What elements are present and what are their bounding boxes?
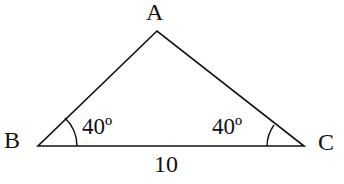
triangle-diagram: A B C 40º 40º 10 bbox=[0, 0, 344, 184]
vertex-label-b: B bbox=[4, 127, 20, 153]
angle-label-b: 40º bbox=[82, 114, 112, 139]
angle-label-c: 40º bbox=[212, 114, 242, 139]
vertex-label-c: C bbox=[318, 129, 334, 155]
angle-arc-b bbox=[65, 118, 77, 146]
triangle-abc bbox=[38, 31, 304, 146]
angle-arc-c bbox=[267, 125, 274, 146]
vertex-label-a: A bbox=[146, 0, 164, 25]
side-label-bc: 10 bbox=[154, 151, 178, 177]
